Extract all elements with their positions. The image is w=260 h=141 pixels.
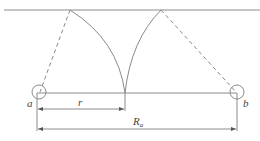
arc-left [70,10,125,93]
diagram-canvas: a b r Ra [0,0,260,141]
arc-right [125,10,161,93]
dashed-line-left [40,10,70,92]
circle-a [32,85,46,99]
label-ra: Ra [132,115,144,129]
label-b: b [243,97,249,109]
label-ra-sub: a [140,121,144,129]
dashed-line-right [161,10,236,92]
label-r: r [78,96,83,108]
label-a: a [27,97,33,109]
